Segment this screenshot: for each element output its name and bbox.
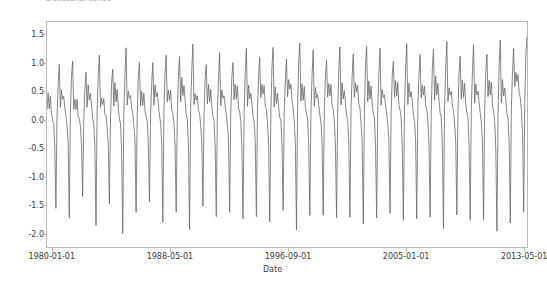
ytick-label-5: -1.0 [0, 172, 44, 181]
ytick-label-7: -2.0 [0, 229, 44, 238]
ytick-label-6: -1.5 [0, 201, 44, 210]
ytick-mark-6 [42, 205, 46, 206]
x-axis-label: Date [0, 265, 545, 274]
ytick-mark-4 [42, 148, 46, 149]
ytick-mark-5 [42, 177, 46, 178]
chart-title-text: a seasonal series [46, 0, 346, 3]
ytick-mark-2 [42, 91, 46, 92]
series-line-plot [47, 22, 527, 247]
plot-axes-area [46, 21, 528, 248]
xtick-label-0: 1980-01-01 [29, 252, 76, 261]
ytick-label-4: -0.5 [0, 144, 44, 153]
xtick-label-4: 2013-05-01 [501, 252, 547, 261]
ytick-label-2: 0.5 [0, 87, 44, 96]
ytick-mark-7 [42, 234, 46, 235]
xtick-label-1: 1988-05-01 [147, 252, 194, 261]
xtick-label-3: 2005-01-01 [383, 252, 430, 261]
ytick-mark-1 [42, 63, 46, 64]
chart-title-clipped: a seasonal series [46, 0, 346, 3]
ytick-label-1: 1.0 [0, 58, 44, 67]
ytick-label-0: 1.5 [0, 30, 44, 39]
ytick-mark-0 [42, 34, 46, 35]
ytick-mark-3 [42, 120, 46, 121]
xtick-label-2: 1996-09-01 [265, 252, 312, 261]
ytick-label-3: 0.0 [0, 115, 44, 124]
data-series-line [47, 36, 527, 234]
